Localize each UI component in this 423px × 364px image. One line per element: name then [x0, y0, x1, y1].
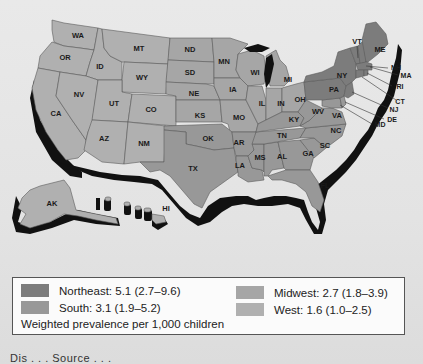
svg-text:FL: FL — [320, 181, 330, 190]
state-ct — [356, 70, 364, 78]
svg-text:MD: MD — [375, 121, 386, 128]
svg-text:OR: OR — [59, 53, 71, 62]
svg-text:IL: IL — [259, 99, 266, 108]
svg-text:TX: TX — [188, 164, 198, 173]
svg-text:CT: CT — [395, 98, 405, 105]
svg-text:DE: DE — [387, 116, 397, 123]
svg-text:CA: CA — [51, 109, 62, 118]
svg-text:MA: MA — [401, 72, 412, 79]
legend-item-west: West: 1.6 (1.0–2.5) — [236, 303, 372, 316]
svg-text:OK: OK — [202, 134, 214, 143]
svg-text:ME: ME — [374, 45, 385, 54]
svg-text:PA: PA — [329, 85, 339, 94]
svg-text:WA: WA — [72, 31, 85, 40]
us-region-map: WA OR CA ID NV MT WY UT CO AZ NM ND SD N… — [0, 0, 423, 268]
svg-text:MO: MO — [233, 113, 245, 122]
svg-text:IA: IA — [229, 85, 237, 94]
state-hi-1 — [105, 197, 111, 201]
legend-label-northeast: Northeast: 5.1 (2.7–9.6) — [59, 285, 180, 297]
svg-text:AL: AL — [277, 152, 287, 161]
legend-item-midwest: Midwest: 2.7 (1.8–3.9) — [236, 286, 388, 299]
svg-text:AR: AR — [234, 138, 245, 147]
svg-text:NY: NY — [337, 71, 347, 80]
svg-text:WI: WI — [250, 68, 259, 77]
svg-text:NJ: NJ — [390, 106, 399, 113]
svg-text:IN: IN — [277, 99, 285, 108]
legend-swatch-northeast — [21, 284, 49, 297]
figure-caption-partial: Dis . . . Source . . . — [10, 352, 111, 364]
svg-text:NV: NV — [74, 90, 84, 99]
svg-text:VT: VT — [352, 37, 362, 46]
svg-text:NM: NM — [138, 139, 150, 148]
svg-text:SC: SC — [320, 141, 331, 150]
svg-text:WY: WY — [136, 73, 148, 82]
svg-text:ID: ID — [96, 62, 104, 71]
svg-text:OH: OH — [294, 95, 305, 104]
svg-text:SD: SD — [185, 68, 196, 77]
svg-text:MT: MT — [134, 44, 145, 53]
lake-superior — [244, 44, 270, 52]
legend-label-south: South: 3.1 (1.9–5.2) — [59, 302, 161, 314]
svg-text:ND: ND — [185, 45, 196, 54]
legend-swatch-south — [21, 301, 49, 314]
svg-text:LA: LA — [235, 161, 246, 170]
legend-swatch-west — [236, 303, 264, 316]
state-hi-4 — [144, 208, 151, 212]
svg-text:GA: GA — [302, 149, 314, 158]
legend-item-northeast: Northeast: 5.1 (2.7–9.6) — [21, 284, 180, 297]
svg-text:RI: RI — [397, 83, 404, 90]
legend-label-midwest: Midwest: 2.7 (1.8–3.9) — [274, 287, 388, 299]
legend-swatch-midwest — [236, 286, 264, 299]
svg-text:WV: WV — [312, 107, 324, 116]
svg-text:VA: VA — [332, 111, 342, 120]
svg-text:MI: MI — [284, 75, 292, 84]
state-hi-2 — [124, 202, 130, 206]
svg-text:KY: KY — [289, 115, 299, 124]
svg-text:HI: HI — [162, 204, 170, 213]
region-northeast — [304, 22, 388, 100]
svg-text:UT: UT — [109, 99, 119, 108]
legend-note: Weighted prevalence per 1,000 children — [21, 318, 224, 330]
svg-text:AK: AK — [47, 199, 58, 208]
map-legend: Northeast: 5.1 (2.7–9.6) South: 3.1 (1.9… — [12, 277, 405, 335]
svg-text:CO: CO — [145, 105, 156, 114]
state-hi-3 — [135, 206, 141, 210]
legend-label-west: West: 1.6 (1.0–2.5) — [274, 304, 372, 316]
svg-text:AZ: AZ — [99, 134, 109, 143]
state-hi-5 — [152, 214, 166, 224]
legend-item-south: South: 3.1 (1.9–5.2) — [21, 301, 161, 314]
svg-text:MS: MS — [254, 153, 265, 162]
svg-text:NC: NC — [331, 126, 342, 135]
state-me — [362, 22, 388, 62]
svg-text:MN: MN — [218, 57, 230, 66]
svg-text:NE: NE — [189, 89, 199, 98]
svg-text:NH: NH — [391, 64, 401, 71]
svg-text:KS: KS — [195, 111, 205, 120]
svg-text:TN: TN — [277, 131, 287, 140]
